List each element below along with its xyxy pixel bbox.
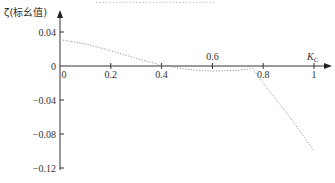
x-tick-label: 0 bbox=[62, 69, 67, 80]
y-axis-arrow-icon bbox=[57, 10, 63, 18]
x-tick-label: 1 bbox=[312, 69, 317, 80]
x-axis-arrow-icon bbox=[324, 63, 332, 69]
y-tick-label: 0 bbox=[51, 61, 56, 72]
y-tick-label: 0.04 bbox=[39, 27, 57, 38]
x-tick-label: 0.2 bbox=[105, 69, 118, 80]
y-tick-label: −0.04 bbox=[33, 95, 56, 106]
data-series bbox=[60, 40, 314, 151]
x-tick-label: 0.4 bbox=[155, 69, 168, 80]
axis-ticks: 0.040−0.04−0.08−0.1200.20.40.60.81 bbox=[33, 27, 317, 174]
y-tick-label: −0.12 bbox=[33, 163, 56, 174]
line-chart: ζ(标幺值)KC 0.040−0.04−0.08−0.1200.20.40.60… bbox=[0, 0, 335, 183]
series-line bbox=[60, 40, 314, 151]
x-axis-title: KC bbox=[306, 51, 319, 64]
x-tick-label: 0.6 bbox=[206, 51, 219, 62]
y-tick-label: −0.08 bbox=[33, 129, 56, 140]
x-tick-label: 0.8 bbox=[257, 69, 270, 80]
y-axis-title: ζ(标幺值) bbox=[4, 6, 47, 18]
